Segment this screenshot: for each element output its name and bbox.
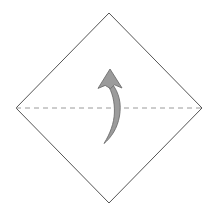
origami-diagram [0, 0, 219, 214]
canvas-background [0, 0, 219, 214]
origami-figure-svg [0, 0, 219, 214]
